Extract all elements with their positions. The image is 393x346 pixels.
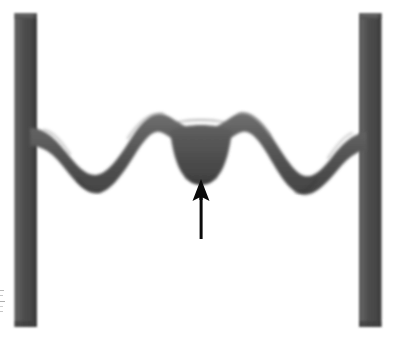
right-pillar (359, 13, 382, 327)
left-pillar (15, 13, 38, 327)
micrograph-canvas (0, 0, 393, 346)
figure-root: Suspended wavy ridge between two vertica… (0, 0, 393, 346)
